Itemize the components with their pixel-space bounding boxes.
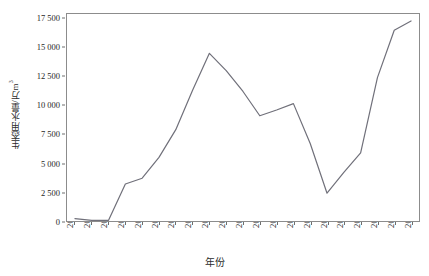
plot-area (66, 13, 420, 222)
y-tick-mark (62, 222, 65, 223)
x-tick-mark (395, 222, 396, 225)
x-tick-mark (311, 222, 312, 225)
x-tick-mark (412, 222, 413, 225)
x-tick-mark (344, 222, 345, 225)
x-tick-mark (243, 222, 244, 225)
x-tick-mark (192, 222, 193, 225)
series-line (75, 21, 411, 220)
x-tick-mark (74, 222, 75, 225)
x-tick-mark (260, 222, 261, 225)
x-tick-mark (142, 222, 143, 225)
y-tick-mark (62, 163, 65, 164)
x-tick-mark (209, 222, 210, 225)
y-tick-mark (62, 17, 65, 18)
series-canvas (67, 14, 419, 221)
x-tick-mark (361, 222, 362, 225)
y-tick-mark (62, 46, 65, 47)
x-tick-mark (125, 222, 126, 225)
x-tick-mark (277, 222, 278, 225)
x-axis-title: 年份 (0, 254, 429, 269)
y-tick-mark (62, 134, 65, 135)
x-tick-mark (378, 222, 379, 225)
x-tick-mark (175, 222, 176, 225)
x-tick-mark (91, 222, 92, 225)
x-tick-mark (108, 222, 109, 225)
x-tick-mark (328, 222, 329, 225)
y-tick-mark (62, 105, 65, 106)
x-tick-mark (294, 222, 295, 225)
x-tick-mark (159, 222, 160, 225)
y-tick-mark (62, 76, 65, 77)
line-chart: 生态用水量/万m3 02 5005 0007 50010 00012 50015… (0, 0, 429, 276)
x-tick-mark (226, 222, 227, 225)
y-tick-mark (62, 192, 65, 193)
